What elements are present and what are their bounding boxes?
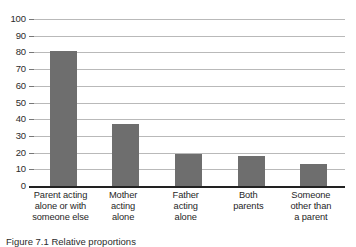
ytick-dash-50 — [29, 103, 34, 104]
ytick-label-20: 20 — [0, 148, 26, 158]
bar-father-acting-alone — [175, 154, 202, 186]
bar-someone-other-than-a-parent — [300, 164, 327, 186]
ytick-dash-100 — [29, 19, 34, 20]
ytick-dash-60 — [29, 86, 34, 87]
gridline-70 — [32, 69, 345, 70]
plot-area: 100 90 80 70 60 50 40 30 20 10 0 — [0, 0, 356, 190]
gridline-50 — [32, 103, 345, 104]
xlabel-line: alone — [153, 212, 219, 223]
xlabel-line: alone or with — [28, 201, 94, 212]
gridline-60 — [32, 86, 345, 87]
xlabel-parent-acting-alone-or-with-someone-else: Parent acting alone or with someone else — [28, 190, 94, 224]
figure-caption: Figure 7.1 Relative proportions — [6, 236, 350, 247]
xlabel-line: Parent acting — [28, 190, 94, 201]
ytick-label-40: 40 — [0, 114, 26, 124]
xlabel-line: Both — [215, 190, 281, 201]
ytick-label-80: 80 — [0, 47, 26, 57]
xlabel-line: other than — [278, 201, 344, 212]
gridline-100 — [32, 19, 345, 20]
ytick-label-100: 100 — [0, 14, 26, 24]
ytick-label-0: 0 — [0, 181, 26, 191]
ytick-dash-40 — [29, 119, 34, 120]
xlabel-line: a parent — [278, 212, 344, 223]
xlabel-line: Mother — [90, 190, 156, 201]
xlabel-line: Someone — [278, 190, 344, 201]
xlabel-mother-acting-alone: Mother acting alone — [90, 190, 156, 224]
gridline-40 — [32, 119, 345, 120]
xlabel-line: Father — [153, 190, 219, 201]
gridline-30 — [32, 136, 345, 137]
x-axis-labels: Parent acting alone or with someone else… — [32, 190, 345, 234]
xlabel-line: alone — [90, 212, 156, 223]
xlabel-father-acting-alone: Father acting alone — [153, 190, 219, 224]
ytick-label-10: 10 — [0, 164, 26, 174]
bar-mother-acting-alone — [112, 124, 139, 186]
ytick-dash-80 — [29, 52, 34, 53]
xlabel-both-parents: Both parents — [215, 190, 281, 212]
ytick-label-70: 70 — [0, 64, 26, 74]
xlabel-line: acting — [90, 201, 156, 212]
xlabel-line: someone else — [28, 212, 94, 223]
x-axis-line — [29, 186, 345, 188]
gridline-90 — [32, 36, 345, 37]
ytick-dash-20 — [29, 153, 34, 154]
ytick-dash-70 — [29, 69, 34, 70]
ytick-label-90: 90 — [0, 31, 26, 41]
xlabel-line: acting — [153, 201, 219, 212]
bar-both-parents — [238, 156, 265, 186]
ytick-dash-30 — [29, 136, 34, 137]
gridline-80 — [32, 52, 345, 53]
xlabel-line: parents — [215, 201, 281, 212]
xlabel-someone-other-than-a-parent: Someone other than a parent — [278, 190, 344, 224]
ytick-dash-10 — [29, 169, 34, 170]
ytick-dash-90 — [29, 36, 34, 37]
ytick-label-30: 30 — [0, 131, 26, 141]
ytick-label-50: 50 — [0, 98, 26, 108]
bar-parent-acting-alone-or-with-someone-else — [50, 51, 77, 186]
ytick-label-60: 60 — [0, 81, 26, 91]
